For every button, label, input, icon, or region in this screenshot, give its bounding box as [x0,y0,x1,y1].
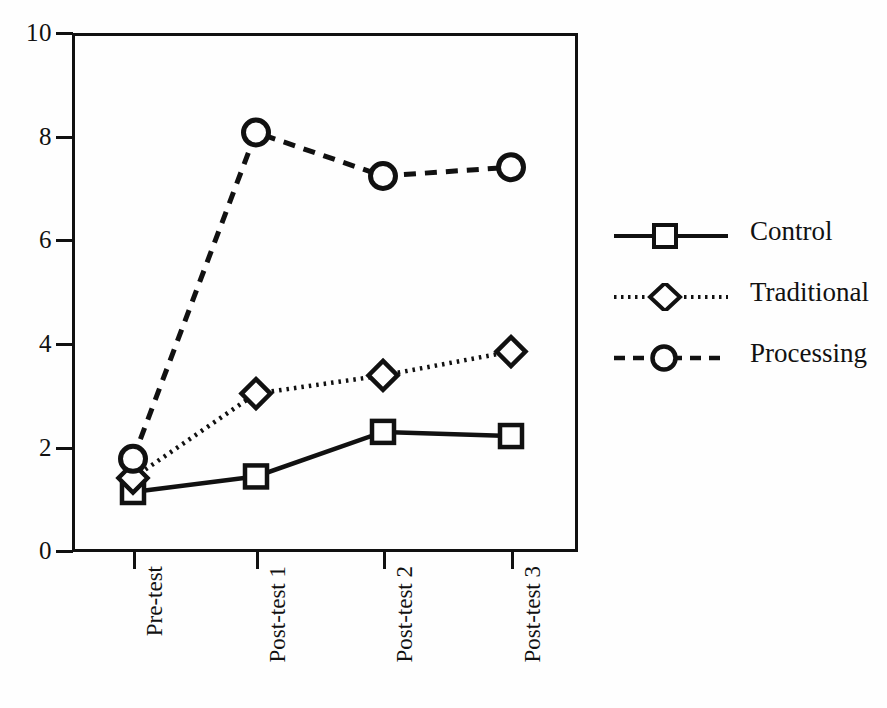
x-tick-label-post-test-3: Post-test 3 [521,566,544,662]
y-tick-label-6: 6 [12,227,52,252]
y-axis-tick [56,447,73,450]
y-axis-tick [56,136,73,139]
legend-item-control[interactable]: Control [612,212,882,273]
x-axis-tick [511,552,514,569]
x-tick-label-pre-test: Pre-test [143,566,166,636]
y-tick-label-8: 8 [12,124,52,149]
x-tick-label-post-test-2: Post-test 2 [393,566,416,662]
y-axis-tick [56,239,73,242]
legend-sample-dotted-diamond [612,283,730,311]
y-tick-label-0: 0 [12,538,52,563]
y-tick-label-2: 2 [12,435,52,460]
y-axis-tick [56,343,73,346]
legend: Control Traditional Processing [612,212,882,395]
legend-sample-dashed-circle [612,344,730,372]
legend-item-processing[interactable]: Processing [612,334,882,395]
y-axis-tick [56,550,73,553]
y-axis-tick [56,32,73,35]
legend-sample-solid-square [612,222,730,250]
legend-label-traditional: Traditional [750,277,869,307]
y-tick-label-10: 10 [12,20,52,45]
plot-area [72,33,578,552]
line-chart: 10 8 6 4 2 0 Pre-test Post-test 1 Post-t… [0,0,887,708]
y-tick-label-4: 4 [12,331,52,356]
legend-label-processing: Processing [750,338,867,368]
legend-item-traditional[interactable]: Traditional [612,273,882,334]
x-axis-tick [256,552,259,569]
x-tick-label-post-test-1: Post-test 1 [266,566,289,662]
legend-label-control: Control [750,216,833,246]
x-axis-tick [383,552,386,569]
x-axis-tick [133,552,136,569]
